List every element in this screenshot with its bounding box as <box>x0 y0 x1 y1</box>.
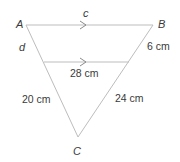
vertex-label-a: A <box>15 18 23 30</box>
label-d-length: d <box>19 41 26 53</box>
triangle-diagram: A B C c d 6 cm 28 cm 20 cm 24 cm <box>0 0 180 162</box>
vertex-label-c: C <box>73 145 81 157</box>
label-28cm: 28 cm <box>70 67 99 79</box>
label-6cm: 6 cm <box>147 40 170 52</box>
side-ac <box>26 25 78 137</box>
label-24cm: 24 cm <box>115 92 144 104</box>
label-c-length: c <box>83 7 89 19</box>
label-20cm: 20 cm <box>22 93 51 105</box>
vertex-label-b: B <box>158 18 165 30</box>
side-bc <box>78 25 153 137</box>
